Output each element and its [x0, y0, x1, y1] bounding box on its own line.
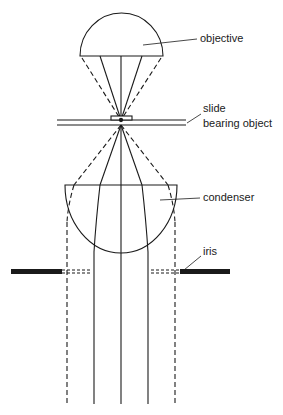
- slide-label: slide: [203, 102, 226, 114]
- objective-label: objective: [200, 32, 243, 44]
- objective-lens: [80, 13, 163, 56]
- bearing-object-label: bearing object: [203, 117, 272, 129]
- condenser-label: condenser: [203, 191, 254, 203]
- condenser-internal-rays: [67, 185, 175, 252]
- condenser-leader: [160, 198, 200, 200]
- iris-leader: [184, 256, 201, 270]
- microscope-diagram: [0, 0, 283, 415]
- iris-right-bar: [180, 269, 230, 274]
- iris-left-bar: [11, 269, 62, 274]
- slide: [57, 116, 186, 125]
- condenser-cone-rays: [74, 125, 168, 185]
- slide-leader: [187, 114, 201, 123]
- iris-label: iris: [203, 245, 217, 257]
- objective-rays: [82, 56, 161, 120]
